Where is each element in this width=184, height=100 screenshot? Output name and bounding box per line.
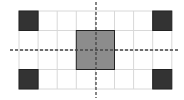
corner-top-right <box>153 11 172 31</box>
corner-bottom-left <box>19 70 38 90</box>
symmetry-grid-diagram <box>0 0 184 100</box>
corner-top-left <box>19 11 38 31</box>
diagram-canvas <box>0 0 184 100</box>
corner-bottom-right <box>153 70 172 90</box>
